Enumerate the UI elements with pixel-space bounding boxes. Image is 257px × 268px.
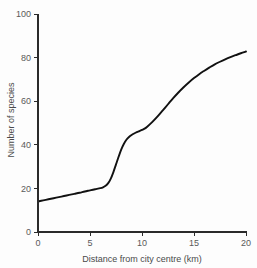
x-axis-tick-label: 20	[241, 238, 251, 248]
y-axis-tick-label: 80	[21, 53, 31, 63]
y-axis-tick-label: 100	[16, 9, 31, 19]
x-axis-tick-label: 5	[87, 238, 92, 248]
y-axis-tick-label: 40	[21, 140, 31, 150]
x-axis-tick-label: 15	[189, 238, 199, 248]
species-distance-line-chart: 020406080100 05101520 Number of species …	[0, 0, 257, 268]
x-axis-title: Distance from city centre (km)	[82, 254, 202, 264]
x-axis-tick-label: 0	[35, 238, 40, 248]
x-axis-tick-label: 10	[137, 238, 147, 248]
y-axis-tick-label: 20	[21, 184, 31, 194]
y-axis-tick-label: 60	[21, 96, 31, 106]
y-axis-tick-label: 0	[26, 227, 31, 237]
chart-container: 020406080100 05101520 Number of species …	[0, 0, 257, 268]
y-axis-title: Number of species	[6, 82, 16, 158]
